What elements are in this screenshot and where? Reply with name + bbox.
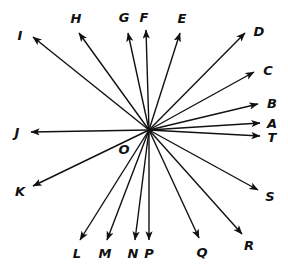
vector-label-E: E (178, 12, 187, 25)
vector-label-B: B (267, 97, 277, 110)
vector-label-A: A (267, 117, 277, 130)
vector-ray-S (149, 130, 258, 190)
vector-label-R: R (244, 239, 254, 252)
vector-label-N: N (128, 247, 139, 260)
vector-ray-T (149, 130, 260, 136)
vector-label-L: L (73, 247, 81, 260)
vector-label-T: T (268, 131, 277, 144)
vector-label-D: D (254, 25, 265, 38)
vector-label-J: J (15, 126, 20, 139)
vector-label-Q: Q (196, 246, 207, 259)
vector-label-I: I (18, 29, 23, 42)
vector-ray-Q (149, 130, 199, 238)
vector-label-F: F (140, 11, 149, 24)
vector-label-M: M (99, 247, 112, 260)
vector-label-S: S (265, 190, 274, 203)
vector-ray-D (149, 33, 245, 130)
vector-ray-R (149, 130, 242, 234)
vector-diagram: ABCDEFGHIJKLMNPQRST O (0, 0, 288, 279)
origin-label-O: O (118, 143, 129, 156)
vector-ray-J (31, 130, 149, 132)
ray-group (31, 30, 260, 240)
vector-label-G: G (119, 11, 130, 24)
vector-label-P: P (144, 247, 154, 260)
vector-label-K: K (15, 185, 25, 198)
vector-label-C: C (263, 64, 273, 77)
vector-label-H: H (71, 12, 82, 25)
